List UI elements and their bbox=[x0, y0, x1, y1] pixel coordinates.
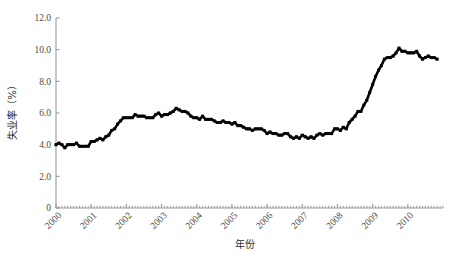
data-point bbox=[383, 58, 386, 61]
data-point bbox=[101, 138, 104, 141]
x-tick-label: 2001 bbox=[78, 210, 99, 231]
x-tick-label: 2009 bbox=[360, 210, 381, 231]
data-point bbox=[427, 55, 430, 58]
data-point bbox=[398, 47, 401, 50]
data-point bbox=[336, 127, 339, 130]
data-point bbox=[151, 116, 154, 119]
data-point bbox=[66, 143, 69, 146]
data-point bbox=[81, 145, 84, 148]
data-point bbox=[239, 124, 242, 127]
data-point bbox=[63, 146, 66, 149]
data-point bbox=[104, 135, 107, 138]
data-point bbox=[304, 135, 307, 138]
data-point bbox=[245, 127, 248, 130]
data-point bbox=[292, 137, 295, 140]
data-point bbox=[377, 69, 380, 72]
data-point bbox=[225, 121, 228, 124]
data-point bbox=[186, 112, 189, 115]
x-tick-label: 2010 bbox=[395, 210, 416, 231]
data-point bbox=[93, 140, 96, 143]
data-point bbox=[307, 137, 310, 140]
data-point bbox=[266, 132, 269, 135]
data-point bbox=[107, 134, 110, 137]
y-tick-label: 6.0 bbox=[39, 108, 51, 118]
data-point bbox=[386, 56, 389, 59]
x-tick-label: 2007 bbox=[289, 210, 310, 231]
y-tick-label: 8.0 bbox=[39, 77, 51, 87]
data-point bbox=[324, 132, 327, 135]
data-point bbox=[321, 134, 324, 137]
data-point bbox=[110, 129, 113, 132]
data-point bbox=[154, 113, 157, 116]
y-tick-label: 2.0 bbox=[39, 172, 51, 182]
data-point bbox=[380, 64, 383, 67]
data-point bbox=[295, 135, 298, 138]
y-axis-tick-labels: 02.04.06.08.010.012.0 bbox=[34, 13, 51, 213]
data-point bbox=[330, 132, 333, 135]
data-point bbox=[318, 132, 321, 135]
data-point bbox=[389, 56, 392, 59]
y-tick-label: 4.0 bbox=[39, 140, 51, 150]
data-point bbox=[140, 115, 143, 118]
y-tick-label: 12.0 bbox=[34, 13, 51, 23]
data-point bbox=[289, 135, 292, 138]
data-point bbox=[374, 75, 377, 78]
data-point bbox=[87, 145, 90, 148]
data-point bbox=[368, 91, 371, 94]
data-point bbox=[236, 124, 239, 127]
data-point bbox=[125, 116, 128, 119]
data-point bbox=[60, 143, 63, 146]
data-point bbox=[274, 132, 277, 135]
data-point bbox=[189, 115, 192, 118]
data-point bbox=[342, 126, 345, 129]
data-point bbox=[160, 115, 163, 118]
data-point bbox=[163, 113, 166, 116]
data-point bbox=[219, 121, 222, 124]
data-point bbox=[84, 145, 87, 148]
data-point bbox=[90, 140, 93, 143]
data-point bbox=[424, 56, 427, 59]
x-tick-label: 2003 bbox=[148, 210, 169, 231]
data-point bbox=[169, 112, 172, 115]
data-point bbox=[345, 127, 348, 130]
data-point bbox=[392, 55, 395, 58]
data-point bbox=[301, 134, 304, 137]
data-point bbox=[315, 134, 318, 137]
data-point bbox=[339, 129, 342, 132]
x-tick-label: 2006 bbox=[254, 210, 275, 231]
data-point bbox=[283, 132, 286, 135]
data-point bbox=[131, 116, 134, 119]
data-point bbox=[222, 119, 225, 122]
data-point bbox=[227, 121, 230, 124]
data-point bbox=[351, 118, 354, 121]
data-point bbox=[166, 113, 169, 116]
data-point bbox=[181, 110, 184, 113]
data-point bbox=[286, 132, 289, 135]
data-point bbox=[298, 137, 301, 140]
data-point bbox=[254, 127, 257, 130]
data-point bbox=[395, 51, 398, 54]
data-point bbox=[260, 127, 263, 130]
data-point bbox=[421, 58, 424, 61]
data-point bbox=[263, 129, 266, 132]
data-point bbox=[178, 108, 181, 111]
data-point bbox=[365, 99, 368, 102]
data-point bbox=[333, 127, 336, 130]
data-point bbox=[312, 137, 315, 140]
y-axis-title: 失业率（%） bbox=[6, 80, 18, 140]
data-point bbox=[436, 58, 439, 61]
data-point bbox=[400, 50, 403, 53]
data-point bbox=[210, 118, 213, 121]
data-point bbox=[75, 142, 78, 145]
chart-figure: 02.04.06.08.010.012.0 200020012002200320… bbox=[0, 0, 453, 260]
data-point bbox=[251, 129, 254, 132]
data-point bbox=[412, 51, 415, 54]
data-point bbox=[359, 110, 362, 113]
data-point bbox=[277, 134, 280, 137]
data-point bbox=[142, 115, 145, 118]
data-point bbox=[280, 134, 283, 137]
data-point bbox=[184, 110, 187, 113]
data-point bbox=[371, 83, 374, 86]
data-point bbox=[55, 143, 58, 146]
x-tick-label: 2002 bbox=[113, 210, 134, 231]
